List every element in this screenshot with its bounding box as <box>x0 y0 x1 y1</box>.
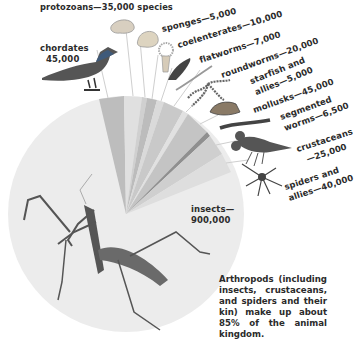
sponge-illustration <box>137 31 158 47</box>
label-insects-1: insects— <box>191 204 234 214</box>
arthropods-note: Arthropods (including insects, crustacea… <box>219 274 327 340</box>
label-protozoans: protozoans—35,000 species <box>40 2 173 12</box>
label-chordates-value: 45,000 <box>46 54 79 64</box>
label-insects-2: 900,000 <box>191 215 230 225</box>
protozoan-illustration <box>111 20 135 33</box>
label-chordates-name: chordates <box>40 43 89 53</box>
spider-illustration <box>242 164 282 196</box>
coelenterate-illustration <box>159 43 173 72</box>
mollusk-illustration <box>210 102 240 115</box>
segmented-worm-illustration <box>220 120 270 128</box>
